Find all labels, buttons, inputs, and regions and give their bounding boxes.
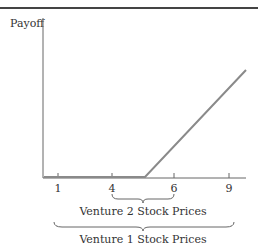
venture-1-label: Venture 1 Stock Prices (78, 233, 207, 246)
x-tick-label-4: 4 (109, 182, 116, 195)
x-tick-label-6: 6 (171, 182, 178, 195)
payoff-line (44, 70, 246, 177)
venture-2-label: Venture 2 Stock Prices (78, 205, 207, 218)
venture-1-brace (54, 222, 234, 231)
x-tick-label-9: 9 (226, 182, 233, 195)
venture-2-brace (112, 194, 174, 203)
y-axis-label: Payoff (10, 17, 45, 30)
x-tick-label-1: 1 (55, 182, 62, 195)
payoff-chart: Payoff 1 4 6 9 Venture 2 Stock Prices Ve… (0, 0, 258, 252)
